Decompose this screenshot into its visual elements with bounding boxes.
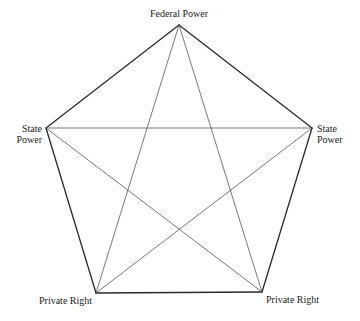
- inner-edge-state_power_right-to-private_right_bottom_left: [96, 128, 312, 293]
- node-label-private-right-bottom-right: Private Right: [266, 294, 336, 305]
- state-power-right-line1: State: [317, 123, 357, 134]
- private-right-right-text: Private Right: [266, 294, 319, 305]
- outer-pentagon: [46, 25, 312, 293]
- outer-edge-state_power_left-to-federal_power: [46, 25, 179, 128]
- inner-edge-federal_power-to-private_right_bottom_right: [179, 25, 262, 292]
- node-label-state-power-right: State Power: [317, 123, 357, 145]
- inner-edge-state_power_left-to-private_right_bottom_right: [46, 128, 262, 292]
- state-power-right-line2: Power: [317, 134, 357, 145]
- inner-star: [46, 25, 312, 293]
- outer-edge-federal_power-to-state_power_right: [179, 25, 312, 128]
- private-right-left-text: Private Right: [39, 295, 92, 306]
- outer-edge-state_power_right-to-private_right_bottom_right: [262, 128, 312, 292]
- node-label-private-right-bottom-left: Private Right: [39, 295, 109, 306]
- pentagram-diagram: Federal Power State Power State Power Pr…: [0, 0, 360, 321]
- federal-power-text: Federal Power: [150, 8, 208, 19]
- diagram-graphic: [0, 0, 360, 321]
- node-label-federal-power: Federal Power: [139, 8, 219, 19]
- outer-edge-private_right_bottom_right-to-private_right_bottom_left: [96, 292, 262, 293]
- outer-edge-private_right_bottom_left-to-state_power_left: [46, 128, 96, 293]
- state-power-left-line2: Power: [4, 134, 42, 145]
- inner-edge-federal_power-to-private_right_bottom_left: [96, 25, 179, 293]
- state-power-left-line1: State: [4, 123, 42, 134]
- node-label-state-power-left: State Power: [4, 123, 42, 145]
